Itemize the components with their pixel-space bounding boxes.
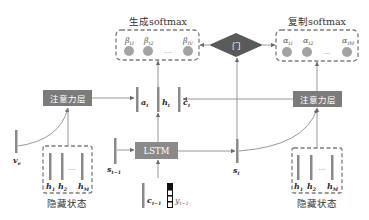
hidden-states-right: … h1 h2 hM 隐藏状态 bbox=[292, 148, 342, 209]
pointer-generator-diagram: 生成softmax βt1 βt2 … βtV 复制softmax αt1 αt… bbox=[0, 0, 369, 220]
alpha-t1-label: αt1 bbox=[283, 36, 293, 46]
ve-to-attention-left-curve bbox=[18, 108, 68, 146]
alpha-t2-label: αt2 bbox=[303, 36, 313, 46]
beta-ellipsis: … bbox=[165, 47, 172, 55]
attention-layer-left: 注意力层 bbox=[43, 90, 92, 106]
ve-label: ve bbox=[13, 155, 21, 166]
hidden-left-hm-vector bbox=[81, 153, 84, 180]
alpha-tm-dot bbox=[342, 47, 352, 57]
hidden-right-hm-vector bbox=[331, 155, 334, 180]
hidden-left-hm-label: hM bbox=[78, 181, 90, 192]
s-prev: st−1 bbox=[107, 138, 121, 175]
hidden-right-hm-label: hM bbox=[327, 181, 339, 192]
c-prev-vector bbox=[142, 183, 145, 208]
gate-label: 门 bbox=[232, 41, 241, 51]
ht-label: ht bbox=[162, 97, 171, 108]
hidden-states-left: … h1 h2 hM 隐藏状态 bbox=[43, 146, 92, 209]
c-prev: ct−1 bbox=[142, 183, 161, 208]
hidden-right-h2-label: h2 bbox=[307, 181, 317, 192]
hidden-left-h2-vector bbox=[61, 153, 64, 180]
hidden-right-title: 隐藏状态 bbox=[297, 198, 337, 209]
at-label: at bbox=[141, 97, 149, 108]
y-prev-label: yt−1 bbox=[174, 196, 189, 206]
attention-right-label: 注意力层 bbox=[300, 95, 336, 105]
y-prev-cell bbox=[168, 196, 173, 202]
beta-t2-label: βt2 bbox=[143, 36, 154, 46]
hidden-left-h1-vector bbox=[49, 153, 52, 180]
copy-softmax: 复制softmax αt1 αt2 … αtM bbox=[276, 16, 358, 61]
st-label: st bbox=[233, 165, 241, 176]
copy-softmax-title: 复制softmax bbox=[288, 16, 347, 27]
lstm-label: LSTM bbox=[144, 146, 170, 156]
lstm-cell: LSTM bbox=[135, 142, 178, 159]
c-prev-label: ct−1 bbox=[147, 195, 161, 206]
beta-t1-dot bbox=[124, 46, 134, 56]
hidden-right-ellipsis: … bbox=[319, 164, 326, 172]
st-to-attention-right-curve bbox=[239, 109, 317, 151]
y-prev-cell bbox=[168, 202, 173, 208]
hidden-right-h2-vector bbox=[310, 155, 313, 180]
attention-left-label: 注意力层 bbox=[50, 94, 86, 104]
hidden-left-h2-label: h2 bbox=[58, 181, 68, 192]
y-prev-onehot-cell bbox=[167, 183, 173, 190]
beta-tv-label: βtV bbox=[182, 36, 194, 46]
hidden-left-ellipsis: … bbox=[69, 164, 76, 172]
v-e: ve bbox=[13, 130, 21, 166]
hidden-right-h1-vector bbox=[297, 155, 300, 180]
hidden-left-title: 隐藏状态 bbox=[47, 198, 87, 209]
context-vectors: at ht ct bbox=[136, 87, 191, 112]
beta-t1-label: βt1 bbox=[124, 36, 135, 46]
attention-layer-right: 注意力层 bbox=[293, 91, 342, 107]
s-t: st bbox=[233, 139, 241, 176]
st-vector bbox=[236, 139, 239, 163]
beta-tv-dot bbox=[183, 46, 193, 56]
ht-vector bbox=[157, 87, 160, 112]
y-prev-cell bbox=[168, 190, 173, 196]
beta-t2-dot bbox=[143, 46, 153, 56]
alpha-ellipsis: … bbox=[324, 48, 331, 56]
s-prev-label: st−1 bbox=[107, 164, 121, 175]
hidden-left-h1-label: h1 bbox=[46, 181, 55, 192]
generate-softmax-title: 生成softmax bbox=[129, 16, 188, 27]
gate: 门 bbox=[200, 33, 275, 57]
ve-vector bbox=[15, 130, 18, 153]
alpha-tm-label: αtM bbox=[342, 36, 354, 46]
alpha-t1-dot bbox=[282, 47, 292, 57]
ct-vector bbox=[178, 87, 181, 112]
hidden-right-h1-label: h1 bbox=[294, 181, 303, 192]
s-prev-vector bbox=[114, 138, 117, 164]
generate-softmax: 生成softmax βt1 βt2 … βtV bbox=[116, 16, 199, 60]
alpha-t2-dot bbox=[302, 47, 312, 57]
y-prev: yt−1 bbox=[167, 183, 189, 208]
at-vector bbox=[136, 87, 139, 112]
